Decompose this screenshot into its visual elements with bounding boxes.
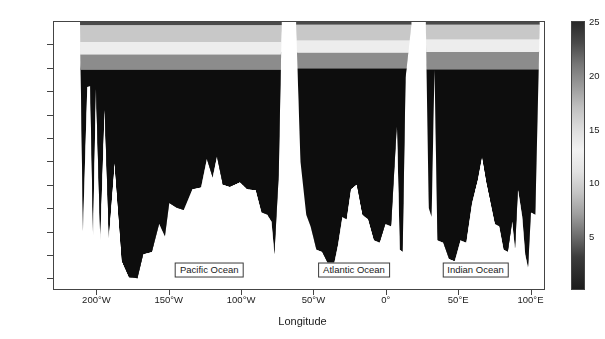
- x-tick-label: 150°W: [154, 294, 183, 305]
- basin-label-pacific-ocean: Pacific Ocean: [175, 262, 244, 277]
- x-tick-mark: [458, 290, 459, 295]
- x-tick-label: 0°: [381, 294, 390, 305]
- colorbar-tick-label: 10: [589, 177, 600, 188]
- x-tick-mark: [531, 290, 532, 295]
- colorbar-gradient: [571, 21, 585, 290]
- x-tick-label: 100°E: [518, 294, 544, 305]
- basin-label-indian-ocean: Indian Ocean: [442, 262, 509, 277]
- colorbar-tick-label: 20: [589, 69, 600, 80]
- x-tick-mark: [169, 290, 170, 295]
- basin-label-atlantic-ocean: Atlantic Ocean: [318, 262, 390, 277]
- colorbar-tick-label: 15: [589, 123, 600, 134]
- x-tick-label: 50°E: [448, 294, 469, 305]
- x-tick-mark: [386, 290, 387, 295]
- x-tick-mark: [241, 290, 242, 295]
- colorbar-tick-label: 5: [589, 231, 594, 242]
- plot-area: [53, 21, 545, 290]
- colorbar-tick-label: 25: [589, 16, 600, 27]
- x-tick-label: 200°W: [82, 294, 111, 305]
- x-tick-label: 100°W: [227, 294, 256, 305]
- x-tick-label: 50°W: [302, 294, 325, 305]
- ocean-section-canvas: [54, 22, 544, 289]
- x-tick-mark: [313, 290, 314, 295]
- colorbar: [571, 21, 585, 290]
- x-tick-mark: [96, 290, 97, 295]
- x-axis-title: Longitude: [0, 315, 605, 327]
- ocean-temperature-section-figure: –500 m–1000 m–1500 m–2000 m–2500 m–3000 …: [0, 0, 605, 339]
